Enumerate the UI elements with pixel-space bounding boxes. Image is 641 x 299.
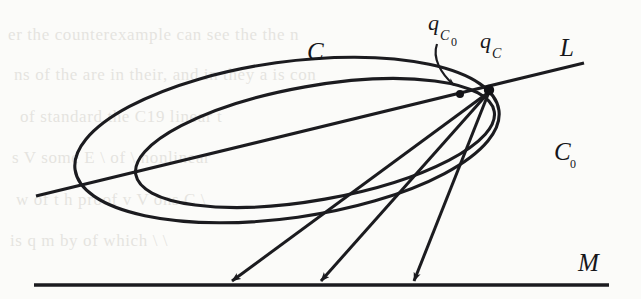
point-qc-node (484, 85, 494, 95)
ghost-line-2: ns of the are in their, and in they a is… (14, 65, 316, 84)
ghost-line-6: is q m by of which \ \ (10, 231, 168, 250)
label-inner-curve-letter: C (554, 138, 571, 165)
label-point-qc: q C (480, 28, 502, 61)
label-qc0-letter: q (428, 10, 439, 35)
label-line-l: L (559, 34, 574, 61)
point-qc0-node (456, 90, 464, 98)
label-qc0-subscript: C (440, 28, 450, 43)
label-outer-curve-c: C (307, 38, 324, 65)
label-inner-curve-c0: C 0 (554, 138, 576, 171)
label-point-qc0: q C 0 (428, 10, 457, 49)
label-pointer-arrow (436, 44, 454, 85)
label-qc0-subsubscript: 0 (451, 35, 457, 49)
label-line-m: M (577, 249, 600, 276)
label-inner-curve-subscript: 0 (570, 157, 576, 171)
geometry-figure-svg: er the counterexample can see the the n … (0, 0, 641, 299)
label-qc-letter: q (480, 28, 491, 53)
label-qc-subscript: C (492, 46, 502, 61)
ghost-line-1: er the counterexample can see the the n (8, 25, 299, 44)
figure-canvas: er the counterexample can see the the n … (0, 0, 641, 299)
ghost-line-4: s V some E \ of \ nonlinear (12, 148, 210, 167)
